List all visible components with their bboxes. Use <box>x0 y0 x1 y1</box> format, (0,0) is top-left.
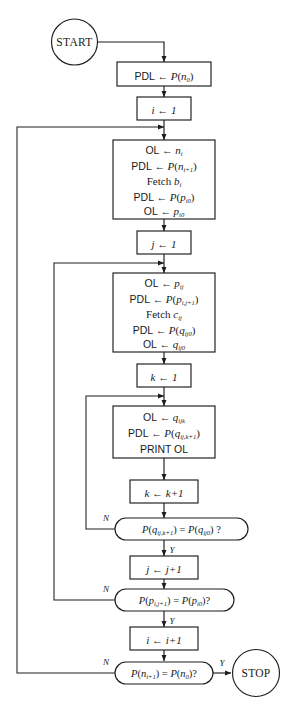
connector-layer <box>17 42 231 673</box>
block-k-print-label: PRINT OL <box>140 443 188 455</box>
node-i-init: i ← 1 <box>137 97 191 120</box>
node-block-k: OL ← qijk PDL ← P(qij,k+1) PRINT OL <box>113 406 215 458</box>
node-stop: STOP <box>233 650 280 697</box>
j-incr-label: j ← j+1 <box>144 563 182 575</box>
init-pdl-label: PDL ← P(n0) <box>134 70 193 83</box>
node-init-pdl: PDL ← P(n0) <box>117 62 211 86</box>
node-j-incr: j ← j+1 <box>130 556 198 579</box>
node-decision-j: P(pi,j+1) = P(pi0)? N Y <box>102 584 234 626</box>
flowchart-svg: START PDL ← P(n0) i ← 1 OL ← ni PDL ← P(… <box>0 0 296 708</box>
node-k-init: k ← 1 <box>137 364 191 387</box>
i-incr-label: i ← i+1 <box>146 634 182 646</box>
block-i-row-3: Fetch bi <box>147 175 182 188</box>
i-init-label: i ← 1 <box>151 104 176 116</box>
node-i-incr: i ← i+1 <box>130 627 198 650</box>
node-block-i: OL ← ni PDL ← P(ni+1) Fetch bi PDL ← P(p… <box>113 140 215 219</box>
decision-j-yes-label: Y <box>169 616 175 626</box>
decision-k-label: P(qij,k+1) = P(qij0) ? <box>141 524 221 536</box>
edge-start-to-init-pdl <box>97 42 164 62</box>
start-label: START <box>56 36 92 48</box>
decision-i-yes-label: Y <box>219 658 225 668</box>
decision-k-yes-label: Y <box>169 545 175 555</box>
node-block-j: OL ← pij PDL ← P(pi,j+1) Fetch cij PDL ←… <box>113 273 215 352</box>
decision-i-no-label: N <box>102 657 110 667</box>
block-i-row-1: OL ← ni <box>145 144 182 157</box>
block-j-row-3: Fetch cij <box>146 308 182 321</box>
j-init-label: j ← 1 <box>149 238 176 250</box>
decision-j-no-label: N <box>102 584 110 594</box>
node-start: START <box>52 19 98 65</box>
node-decision-i: P(ni+1) = P(n0)? N Y <box>102 657 226 684</box>
node-j-init: j ← 1 <box>137 231 191 254</box>
flowchart-canvas: START PDL ← P(n0) i ← 1 OL ← ni PDL ← P(… <box>0 0 296 708</box>
node-k-incr: k ← k+1 <box>130 480 198 503</box>
block-i-row-4: PDL ← P(pi0) <box>134 191 195 204</box>
block-j-row-1: OL ← pij <box>145 277 184 290</box>
decision-k-no-label: N <box>102 513 110 523</box>
k-incr-label: k ← k+1 <box>144 487 183 499</box>
node-decision-k: P(qij,k+1) = P(qij0) ? N Y <box>102 513 248 555</box>
stop-label: STOP <box>241 667 270 679</box>
block-i-row-5: OL ← pi0 <box>144 205 185 218</box>
k-init-label: k ← 1 <box>151 371 178 383</box>
